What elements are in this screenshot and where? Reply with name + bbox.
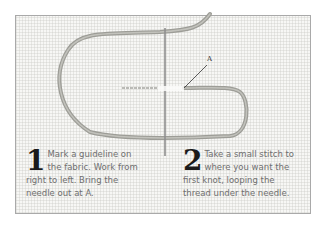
step-2-number: 2 <box>183 149 202 173</box>
pointer-line-a <box>184 65 207 88</box>
step-2: 2 Take a small stitch to where you want … <box>183 148 301 200</box>
step-1: 1 Mark a guideline on the fabric. Work f… <box>26 148 141 200</box>
point-a-label: A <box>207 55 212 63</box>
step-1-number: 1 <box>26 149 45 173</box>
